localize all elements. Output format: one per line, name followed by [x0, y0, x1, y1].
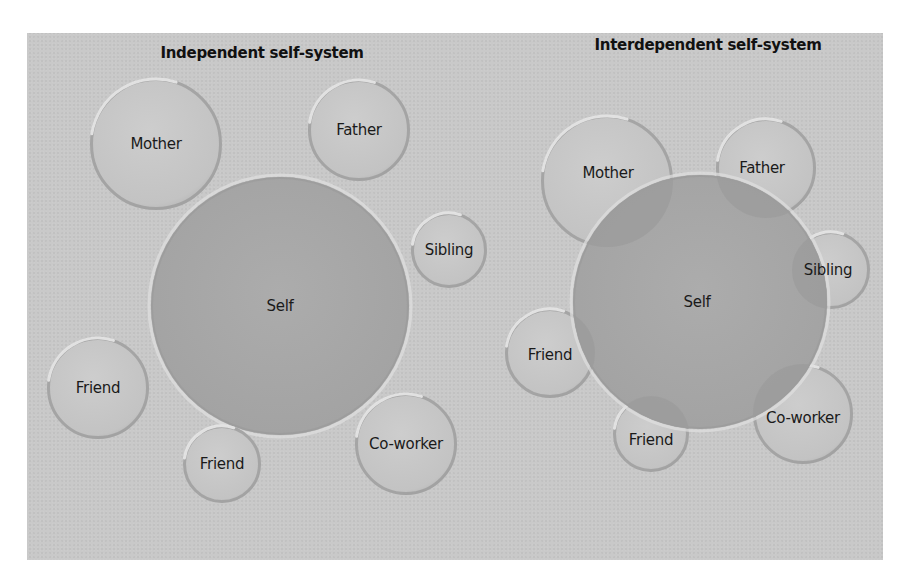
independent-father-label: Father [336, 121, 381, 139]
interdependent-father-label: Father [739, 159, 784, 177]
independent-friend-label: Friend [200, 455, 244, 473]
interdependent-sibling-label: Sibling [804, 261, 852, 279]
interdependent-friend-label: Friend [629, 431, 673, 449]
independent-self-label: Self [267, 297, 294, 315]
independent-mother-label: Mother [130, 135, 181, 153]
interdependent-self-label: Self [684, 293, 711, 311]
interdependent-title: Interdependent self-system [594, 36, 821, 54]
independent-friend-label: Friend [76, 379, 120, 397]
independent-co-worker-label: Co-worker [369, 435, 443, 453]
interdependent-friend-label: Friend [528, 346, 572, 364]
self-system-diagram [0, 0, 905, 571]
interdependent-co-worker-label: Co-worker [766, 409, 840, 427]
independent-sibling-label: Sibling [425, 241, 473, 259]
interdependent-mother-label: Mother [582, 164, 633, 182]
independent-title: Independent self-system [160, 44, 363, 62]
